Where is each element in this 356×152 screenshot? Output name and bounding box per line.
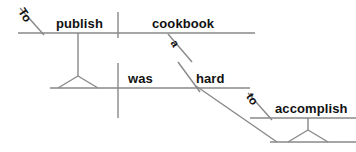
label-hard: hard bbox=[196, 72, 225, 85]
complement-descender-line bbox=[196, 86, 277, 142]
label-was: was bbox=[128, 72, 153, 85]
complement-pedestal-leg-left bbox=[288, 130, 308, 142]
label-publish: publish bbox=[56, 17, 103, 30]
subject-pedestal-leg-left bbox=[58, 76, 78, 88]
label-cookbook: cookbook bbox=[152, 17, 214, 30]
label-accomplish: accomplish bbox=[275, 102, 348, 115]
complement-pedestal-leg-right bbox=[308, 130, 328, 142]
sentence-diagram-canvas: To publish cookbook a was hard to accomp… bbox=[0, 0, 356, 152]
subject-pedestal-leg-right bbox=[78, 76, 98, 88]
